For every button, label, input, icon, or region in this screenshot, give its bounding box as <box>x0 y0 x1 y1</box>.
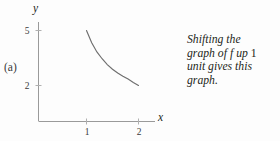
x-tick-label-1: 1 <box>85 127 90 137</box>
caption-line-2-a: graph of <box>187 47 227 60</box>
caption-line-1: Shifting the <box>187 33 279 47</box>
caption-line-2: graph offup 1 <box>187 47 279 61</box>
figure-page: (a) y x 5 2 1 2 Shi <box>0 0 280 141</box>
caption-line-4: graph. <box>187 74 279 88</box>
caption-line-2-c: up <box>236 47 248 60</box>
caption-line-3: unit gives this <box>187 60 279 74</box>
y-tick-label-5: 5 <box>25 26 30 36</box>
x-tick-label-2: 2 <box>137 127 142 137</box>
caption-number-1: 1 <box>251 47 257 60</box>
caption-math-f: f <box>230 47 233 60</box>
caption-text: Shifting the graph offup 1 unit gives th… <box>187 33 279 87</box>
curve-shifted-f <box>87 31 139 86</box>
graph-figure: y x 5 2 1 2 <box>0 0 180 141</box>
y-tick-label-2: 2 <box>25 81 30 91</box>
graph-svg: y x 5 2 1 2 <box>0 0 180 141</box>
axis-label-x: x <box>157 111 164 123</box>
axis-label-y: y <box>32 2 39 15</box>
